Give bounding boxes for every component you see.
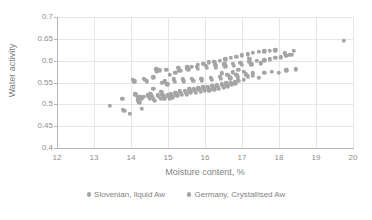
data-point (190, 65, 194, 69)
data-point (160, 81, 164, 85)
legend-label: Slovenian, liquid Aw (94, 190, 165, 199)
x-tick-label: 12 (53, 154, 62, 162)
y-tick-label: 0.5 (42, 100, 53, 108)
data-point (251, 51, 255, 55)
data-point (256, 50, 260, 54)
data-point (269, 69, 273, 73)
data-point (206, 60, 210, 64)
gridline-vertical (94, 17, 95, 148)
data-point (120, 97, 124, 101)
x-axis-title: Moisture content, % (57, 168, 353, 177)
data-point (234, 55, 238, 59)
x-tick-label: 14 (127, 154, 136, 162)
data-point (249, 62, 253, 66)
scatter-chart-figure: 0.40.450.50.550.60.650.7 121314151617181… (0, 0, 372, 220)
data-point (251, 73, 255, 77)
gridline-vertical (316, 17, 317, 148)
data-point (173, 71, 177, 75)
data-point (205, 66, 209, 70)
legend-marker-icon (187, 192, 191, 196)
data-point (273, 56, 277, 60)
data-point (262, 71, 266, 75)
data-point (236, 68, 240, 72)
data-point (195, 63, 199, 67)
gridline-vertical (353, 17, 354, 148)
gridline-vertical (242, 17, 243, 148)
data-point (151, 75, 155, 79)
data-point (279, 55, 283, 59)
y-tick-label: 0.45 (37, 122, 53, 130)
data-point (256, 75, 260, 79)
data-point (223, 64, 227, 68)
data-point (293, 67, 297, 71)
legend-item[interactable]: Slovenian, liquid Aw (87, 190, 165, 199)
x-tick-label: 19 (312, 154, 321, 162)
data-point (209, 78, 213, 82)
chart-legend: Slovenian, liquid AwGermany, Crystallise… (0, 190, 372, 199)
y-axis-tick-labels: 0.40.450.50.550.60.650.7 (20, 0, 53, 220)
y-axis-title: Water activity (8, 21, 17, 121)
x-tick-label: 15 (164, 154, 173, 162)
x-axis-line (57, 148, 354, 149)
y-tick-label: 0.65 (37, 35, 53, 43)
x-tick-label: 13 (90, 154, 99, 162)
data-point (195, 67, 199, 71)
data-point (273, 48, 277, 52)
y-tick-label: 0.55 (37, 79, 53, 87)
y-tick-label: 0.7 (42, 13, 53, 21)
data-point (240, 63, 244, 67)
data-point (245, 52, 249, 56)
data-point (158, 68, 162, 72)
legend-item[interactable]: Germany, Crystallised Aw (187, 190, 285, 199)
data-point (122, 109, 126, 113)
y-tick-label: 0.6 (42, 57, 53, 65)
data-point (284, 68, 288, 72)
data-point (292, 49, 296, 53)
data-point (240, 53, 244, 57)
data-point (229, 56, 233, 60)
data-point (179, 69, 183, 73)
legend-label: Germany, Crystallised Aw (194, 190, 285, 199)
legend-marker-icon (87, 192, 91, 196)
data-point (232, 64, 236, 68)
data-point (262, 58, 266, 62)
data-point (242, 78, 246, 82)
data-point (218, 77, 222, 81)
data-point (140, 106, 144, 110)
gridline-vertical (205, 17, 206, 148)
data-point (219, 71, 223, 75)
data-point (262, 49, 266, 53)
data-point (342, 39, 346, 43)
data-point (288, 53, 292, 57)
y-tick-label: 0.4 (42, 144, 53, 152)
data-point (153, 99, 157, 103)
x-axis-tick-labels: 121314151617181920 (0, 154, 372, 166)
gridline-vertical (279, 17, 280, 148)
data-point (214, 65, 218, 69)
x-tick-label: 18 (275, 154, 284, 162)
data-point (107, 103, 111, 107)
x-tick-label: 20 (349, 154, 358, 162)
data-point (151, 87, 155, 91)
x-tick-label: 16 (201, 154, 210, 162)
plot-area (57, 17, 353, 148)
x-tick-label: 17 (238, 154, 247, 162)
y-axis-line (57, 17, 58, 149)
data-point (245, 74, 249, 78)
data-point (268, 48, 272, 52)
data-point (277, 71, 281, 75)
